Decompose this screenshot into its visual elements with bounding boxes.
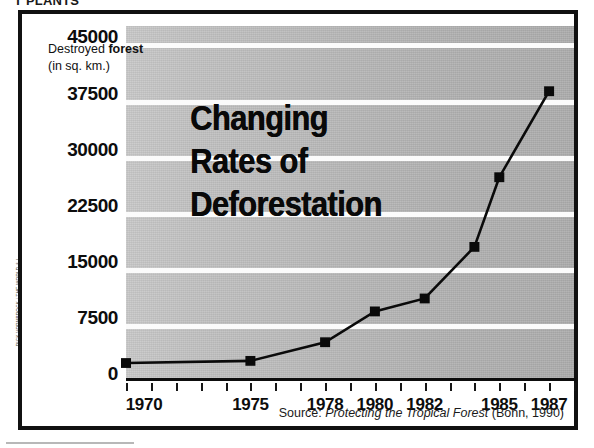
x-tick-1981 — [400, 383, 402, 391]
x-axis-tick-marks — [126, 383, 576, 392]
source-publication-title: Protecting the Tropical Forest — [325, 406, 488, 420]
x-tick-1988 — [574, 383, 576, 391]
x-tick-1985 — [499, 383, 501, 391]
data-point-1987 — [544, 86, 554, 96]
source-prefix: Source: — [279, 406, 326, 420]
data-point-1975 — [245, 356, 255, 366]
chart-canvas: 45000 37500 30000 22500 15000 7500 0 Des… — [22, 14, 574, 426]
x-tick-1972 — [176, 383, 178, 391]
x-tick-1980 — [375, 383, 377, 391]
data-series-layer — [22, 14, 574, 426]
source-suffix: (Bonn, 1990) — [488, 406, 564, 420]
data-point-1970 — [121, 358, 131, 368]
x-axis-label-1975: 1975 — [232, 395, 269, 415]
source-note: Source: Protecting the Tropical Forest (… — [279, 406, 564, 420]
chart-frame: 45000 37500 30000 22500 15000 7500 0 Des… — [18, 10, 578, 430]
data-point-1985 — [494, 172, 504, 182]
data-point-1984 — [469, 242, 479, 252]
x-tick-1975 — [250, 383, 252, 391]
data-point-1982 — [420, 294, 430, 304]
x-tick-1977 — [300, 383, 302, 391]
x-tick-1973 — [201, 383, 203, 391]
clipped-page-header: T PLANTS — [14, 0, 154, 7]
data-point-1980 — [370, 307, 380, 317]
data-point-1978 — [320, 337, 330, 347]
x-axis-label-1970: 1970 — [126, 395, 163, 415]
x-tick-1971 — [151, 383, 153, 391]
x-tick-1970 — [126, 383, 128, 391]
data-line — [126, 91, 549, 363]
x-tick-1984 — [474, 383, 476, 391]
x-tick-1979 — [350, 383, 352, 391]
x-tick-1982 — [425, 383, 427, 391]
x-tick-1974 — [226, 383, 228, 391]
x-tick-1978 — [325, 383, 327, 391]
x-tick-1987 — [549, 383, 551, 391]
x-tick-1986 — [524, 383, 526, 391]
scan-artifact-rule — [6, 442, 134, 444]
x-tick-1983 — [450, 383, 452, 391]
x-tick-1976 — [275, 383, 277, 391]
x-axis-line — [126, 378, 576, 381]
